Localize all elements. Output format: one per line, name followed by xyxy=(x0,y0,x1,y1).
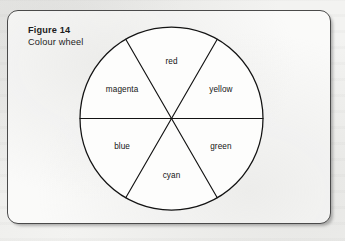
figure-number-label: Figure 14 xyxy=(28,25,83,37)
sector-label-green: green xyxy=(210,142,232,151)
sector-label-magenta: magenta xyxy=(106,85,139,94)
sector-label-yellow: yellow xyxy=(209,85,232,94)
sector-label-blue: blue xyxy=(114,142,130,151)
sector-label-cyan: cyan xyxy=(163,171,181,180)
sector-label-red: red xyxy=(165,57,177,66)
figure-caption: Figure 14 Colour wheel xyxy=(28,25,83,48)
figure-caption-text: Colour wheel xyxy=(28,37,83,49)
